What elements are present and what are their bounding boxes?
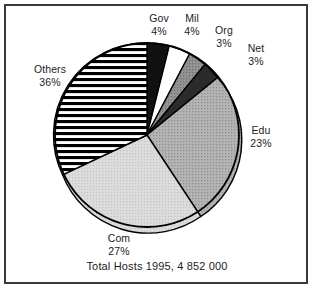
pie-label-edu-name: Edu [244, 124, 278, 137]
pie-label-org-pct: 3% [208, 37, 240, 50]
pie-label-com-name: Com [100, 232, 138, 245]
plot-area: Gov 4% Mil 4% Org 3% Net 3% Edu 23% Com … [0, 0, 314, 290]
pie-label-gov-pct: 4% [142, 25, 176, 38]
pie-label-org-name: Org [208, 24, 240, 37]
pie-label-others-pct: 36% [26, 76, 74, 89]
pie-label-net-name: Net [240, 42, 272, 55]
pie-label-edu: Edu 23% [244, 124, 278, 149]
pie-label-mil-name: Mil [177, 12, 207, 25]
pie-label-com: Com 27% [100, 232, 138, 257]
chart-caption: Total Hosts 1995, 4 852 000 [0, 260, 314, 272]
pie-label-gov: Gov 4% [142, 12, 176, 37]
pie-label-com-pct: 27% [100, 245, 138, 258]
pie-label-org: Org 3% [208, 24, 240, 49]
pie-label-edu-pct: 23% [244, 137, 278, 150]
pie-label-others: Others 36% [26, 63, 74, 88]
pie-label-gov-name: Gov [142, 12, 176, 25]
pie-label-net-pct: 3% [240, 55, 272, 68]
pie-chart-figure: Gov 4% Mil 4% Org 3% Net 3% Edu 23% Com … [0, 0, 314, 290]
pie-label-net: Net 3% [240, 42, 272, 67]
pie-label-mil: Mil 4% [177, 12, 207, 37]
pie-label-others-name: Others [26, 63, 74, 76]
pie-label-mil-pct: 4% [177, 25, 207, 38]
